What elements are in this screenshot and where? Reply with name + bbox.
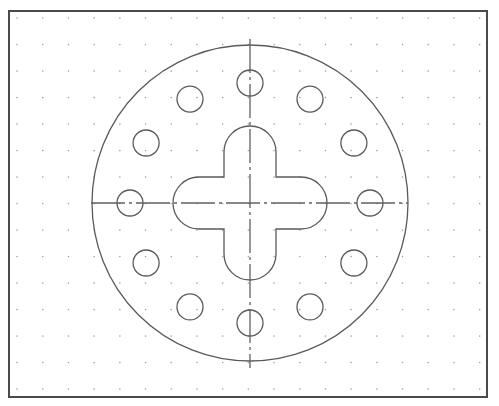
grid-dot <box>145 70 146 71</box>
grid-dot <box>273 229 274 230</box>
grid-dot <box>222 44 223 45</box>
grid-dot <box>428 70 429 71</box>
grid-dot <box>351 44 352 45</box>
grid-dot <box>16 388 17 389</box>
grid-dot <box>351 229 352 230</box>
grid-dot <box>376 176 377 177</box>
grid-dot <box>16 309 17 310</box>
grid-dot <box>428 388 429 389</box>
grid-dot <box>479 123 480 124</box>
grid-dot <box>68 44 69 45</box>
grid-dot <box>68 282 69 283</box>
grid-dot <box>16 176 17 177</box>
grid-dot <box>248 362 249 363</box>
grid-dot <box>145 123 146 124</box>
grid-dot <box>402 309 403 310</box>
grid-dot <box>16 44 17 45</box>
grid-dot <box>453 229 454 230</box>
grid-dot <box>94 150 95 151</box>
grid-dot <box>16 203 17 204</box>
grid-dot <box>479 150 480 151</box>
grid-dot <box>453 362 454 363</box>
grid-dot <box>171 44 172 45</box>
grid-dot <box>68 388 69 389</box>
grid-dot <box>325 362 326 363</box>
grid-dot <box>16 150 17 151</box>
grid-dot <box>196 17 197 18</box>
grid-dot <box>273 150 274 151</box>
grid-dot <box>222 17 223 18</box>
grid-dot <box>68 97 69 98</box>
grid-dot <box>351 256 352 257</box>
grid-dot <box>453 123 454 124</box>
grid-dot <box>171 309 172 310</box>
grid-dot <box>145 309 146 310</box>
grid-dot <box>42 70 43 71</box>
grid-dot <box>68 335 69 336</box>
grid-dot <box>222 123 223 124</box>
grid-dot <box>42 150 43 151</box>
grid-dot <box>299 362 300 363</box>
grid-dot <box>196 282 197 283</box>
grid-dot <box>351 123 352 124</box>
grid-dot <box>222 335 223 336</box>
grid-dot <box>376 309 377 310</box>
grid-dot <box>273 309 274 310</box>
grid-dot <box>376 70 377 71</box>
grid-dot <box>453 176 454 177</box>
grid-dot <box>171 150 172 151</box>
grid-dot <box>68 176 69 177</box>
grid-dot <box>428 335 429 336</box>
grid-dot <box>16 97 17 98</box>
grid-dot <box>68 362 69 363</box>
grid-dot <box>428 282 429 283</box>
grid-dot <box>16 362 17 363</box>
grid-dot <box>171 335 172 336</box>
grid-dot <box>196 362 197 363</box>
grid-dot <box>402 17 403 18</box>
grid-dot <box>273 256 274 257</box>
grid-dot <box>68 123 69 124</box>
grid-dot <box>222 97 223 98</box>
grid-dot <box>171 203 172 204</box>
grid-dot <box>196 123 197 124</box>
grid-dot <box>402 256 403 257</box>
grid-dot <box>402 203 403 204</box>
grid-dot <box>171 70 172 71</box>
grid-dot <box>351 17 352 18</box>
grid-dot <box>94 123 95 124</box>
grid-dot <box>196 309 197 310</box>
grid-dot <box>325 123 326 124</box>
grid-dot <box>299 388 300 389</box>
grid-dot <box>402 44 403 45</box>
grid-dot <box>325 309 326 310</box>
grid-dot <box>145 97 146 98</box>
grid-dot <box>145 17 146 18</box>
grid-dot <box>68 309 69 310</box>
grid-dot <box>68 229 69 230</box>
grid-dot <box>171 388 172 389</box>
grid-dot <box>376 388 377 389</box>
grid-dot <box>16 335 17 336</box>
grid-dot <box>402 150 403 151</box>
grid-dot <box>428 229 429 230</box>
grid-dot <box>222 362 223 363</box>
grid-dot <box>351 176 352 177</box>
grid-dot <box>119 17 120 18</box>
grid-dot <box>42 97 43 98</box>
grid-dot <box>222 309 223 310</box>
grid-dot <box>402 176 403 177</box>
grid-dot <box>351 335 352 336</box>
grid-dot <box>299 282 300 283</box>
grid-dot <box>325 335 326 336</box>
grid-dot <box>273 335 274 336</box>
grid-dot <box>273 123 274 124</box>
grid-dot <box>479 44 480 45</box>
grid-dot <box>196 97 197 98</box>
grid-dot <box>479 97 480 98</box>
grid-dot <box>351 388 352 389</box>
drawing-canvas[interactable] <box>0 0 499 406</box>
grid-dot <box>325 70 326 71</box>
grid-dot <box>299 256 300 257</box>
grid-dot <box>42 309 43 310</box>
